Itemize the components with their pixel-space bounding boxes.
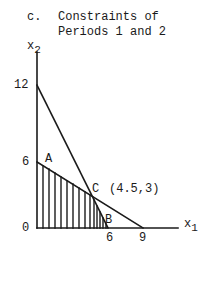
feasible-region-hatching: [43, 166, 106, 228]
constraint-diagram: [0, 0, 205, 298]
